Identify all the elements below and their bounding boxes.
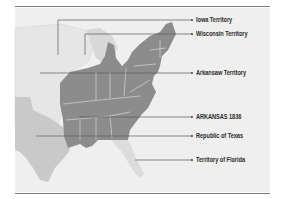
map-figure: Iowa Territory Wisconsin Territory Arkan…	[0, 0, 283, 199]
label-republic-of-texas: Republic of Texas	[196, 132, 243, 140]
label-wisconsin-territory: Wisconsin Territory	[196, 30, 248, 38]
label-territory-of-florida: Territory of Florida	[196, 156, 245, 164]
label-arkansaw-territory: Arkansaw Territory	[196, 69, 246, 77]
label-arkansas-1836: ARKANSAS 1836	[196, 113, 241, 121]
bottom-rule	[15, 193, 270, 194]
label-iowa-territory: Iowa Territory	[196, 16, 232, 24]
